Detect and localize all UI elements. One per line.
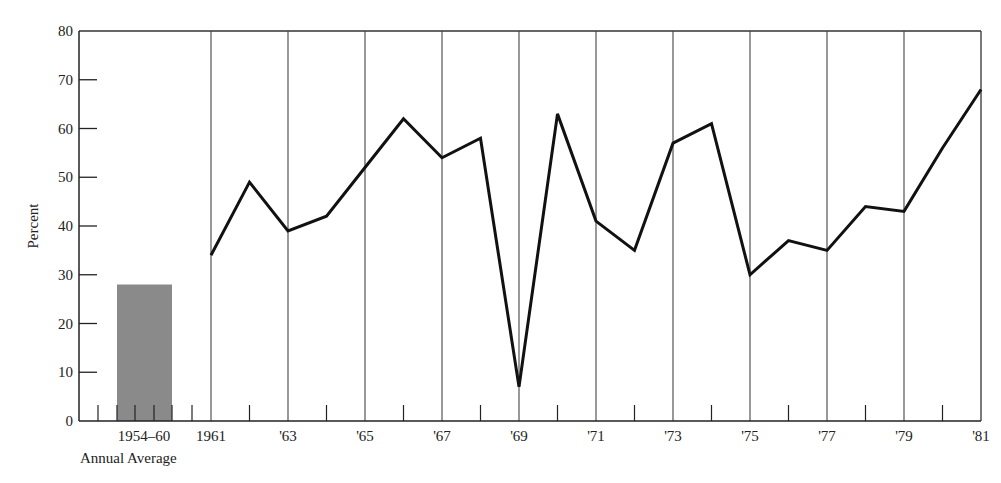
y-tick-label: 60	[58, 121, 73, 137]
x-tick-label: '77	[818, 428, 836, 444]
x-tick-label: '63	[279, 428, 297, 444]
y-tick-label: 10	[58, 364, 73, 380]
bar-sublabel: Annual Average	[80, 450, 177, 466]
y-axis: 01020304050607080	[58, 23, 97, 429]
y-axis-title: Percent	[25, 203, 41, 249]
x-tick-label: '79	[895, 428, 913, 444]
vertical-gridlines	[79, 31, 981, 421]
y-tick-label: 40	[58, 218, 73, 234]
y-tick-label: 0	[66, 413, 74, 429]
x-tick-label: '65	[356, 428, 374, 444]
x-tick-label: '73	[664, 428, 682, 444]
annual-average-bar	[117, 285, 172, 422]
y-tick-label: 30	[58, 267, 73, 283]
x-tick-label: '69	[510, 428, 528, 444]
y-tick-label: 50	[58, 169, 73, 185]
line-chart: 01020304050607080 1961'63'65'67'69'71'73…	[0, 0, 1001, 483]
x-tick-label: '81	[972, 428, 990, 444]
x-tick-label: 1961	[196, 428, 226, 444]
bar-label: 1954–60	[118, 428, 171, 444]
x-tick-label: '67	[433, 428, 451, 444]
y-tick-label: 80	[58, 23, 73, 39]
x-tick-label: '75	[741, 428, 759, 444]
x-axis: 1961'63'65'67'69'71'73'75'77'79'81	[79, 421, 990, 444]
x-tick-label: '71	[587, 428, 605, 444]
x-minor-ticks	[98, 405, 943, 421]
y-tick-label: 70	[58, 72, 73, 88]
y-tick-label: 20	[58, 316, 73, 332]
